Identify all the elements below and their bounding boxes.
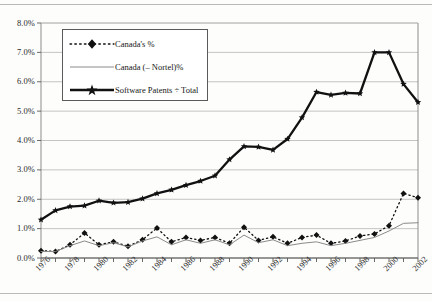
legend-item-canada-minus-nortel: Canada (– Nortel)% — [63, 55, 207, 79]
y-tick-label: 7.0% — [1, 47, 35, 57]
y-tick-label: 6.0% — [1, 76, 35, 86]
y-tick-label: 1.0% — [1, 223, 35, 233]
legend-key-solid-thin — [69, 59, 115, 75]
y-tick-label: 2.0% — [1, 194, 35, 204]
legend-key-solid-thick-star — [69, 82, 115, 98]
y-tick-label: 8.0% — [1, 18, 35, 28]
legend-key-dotted-diamond — [69, 36, 115, 52]
legend-label-canada-minus-nortel: Canada (– Nortel)% — [115, 62, 183, 72]
chart-legend: Canada's % Canada (– Nortel)% Software P… — [62, 29, 208, 101]
chart-figure: 0.0%1.0%2.0%3.0%4.0%5.0%6.0%7.0%8.0% 197… — [0, 0, 432, 302]
legend-item-software-patents-ratio: Software Patents ÷ Total — [63, 78, 207, 102]
y-tick-label: 3.0% — [1, 164, 35, 174]
y-tick-label: 5.0% — [1, 106, 35, 116]
legend-item-canadas-pct: Canada's % — [63, 32, 207, 56]
y-tick-label: 0.0% — [1, 253, 35, 263]
y-tick-label: 4.0% — [1, 135, 35, 145]
legend-label-canadas-pct: Canada's % — [115, 39, 155, 49]
legend-label-software-patents-ratio: Software Patents ÷ Total — [115, 85, 198, 95]
